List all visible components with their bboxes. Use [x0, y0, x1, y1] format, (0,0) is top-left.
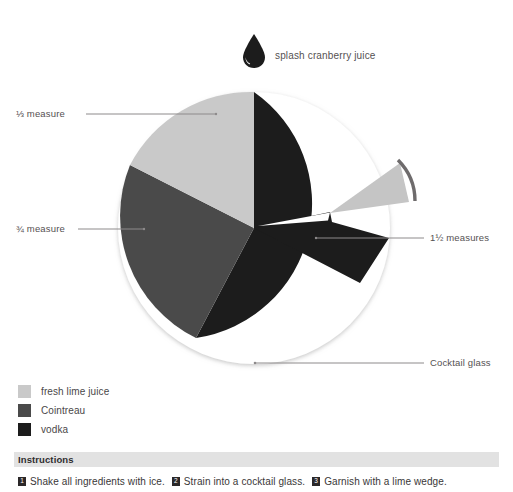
legend-item-cointreau: Cointreau: [18, 401, 109, 420]
droplet-icon: [241, 33, 267, 69]
glass-callout-label: Cocktail glass: [430, 358, 491, 368]
instruction-step-1: 1 Shake all ingredients with ice.: [18, 476, 165, 487]
legend-label-vodka: vodka: [41, 425, 68, 435]
garnish-group: [241, 33, 267, 73]
step-number-badge-3: 3: [312, 477, 320, 486]
leader-dot-glass: [254, 362, 257, 365]
recipe-infographic: splash cranberry juice ⅓ measure ¾ measu…: [0, 0, 513, 492]
leader-dot-cointreau: [143, 228, 145, 230]
legend-swatch-vodka: [18, 423, 31, 436]
vodka-callout-label: 1½ measures: [430, 233, 489, 243]
instruction-step-2: 2 Strain into a cocktail glass.: [172, 476, 305, 487]
legend-swatch-cointreau: [18, 404, 31, 417]
instructions-title: Instructions: [14, 454, 74, 465]
step-text-2: Strain into a cocktail glass.: [184, 476, 305, 487]
step-text-1: Shake all ingredients with ice.: [30, 476, 165, 487]
instructions-section: Instructions 1 Shake all ingredients wit…: [0, 452, 513, 487]
instruction-step-3: 3 Garnish with a lime wedge.: [312, 476, 447, 487]
instructions-header-bar: Instructions: [14, 452, 499, 467]
legend-item-vodka: vodka: [18, 420, 109, 439]
leader-dot-vodka: [315, 237, 317, 239]
legend-label-lime-juice: fresh lime juice: [41, 387, 109, 397]
legend-label-cointreau: Cointreau: [41, 406, 85, 416]
lime-juice-callout-label: ⅓ measure: [16, 109, 65, 119]
legend: fresh lime juice Cointreau vodka: [18, 382, 109, 439]
step-text-3: Garnish with a lime wedge.: [324, 476, 447, 487]
leader-dot-lime-juice: [215, 113, 217, 115]
legend-swatch-lime-juice: [18, 385, 31, 398]
cointreau-callout-label: ¾ measure: [16, 224, 65, 234]
instructions-steps: 1 Shake all ingredients with ice. 2 Stra…: [18, 476, 513, 487]
step-number-badge-1: 1: [18, 477, 26, 486]
step-number-badge-2: 2: [172, 477, 180, 486]
garnish-label: splash cranberry juice: [275, 51, 376, 61]
legend-item-lime-juice: fresh lime juice: [18, 382, 109, 401]
